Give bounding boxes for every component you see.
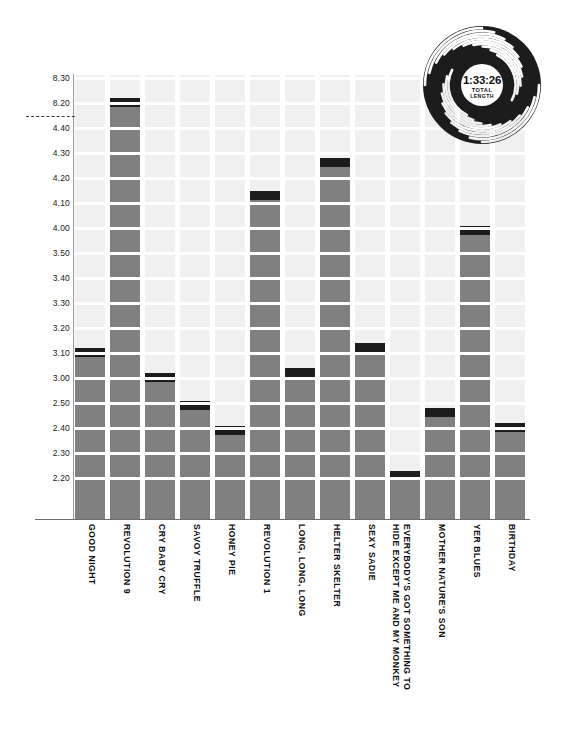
y-axis-tick-label: 3.10 [32,349,70,358]
gridline [75,452,530,455]
y-axis-tick-label: 4.20 [32,174,70,183]
gridline [75,252,530,255]
x-axis-tick-label: SAVOY TRUFFLE [192,524,203,694]
y-axis-tick-label: 4.30 [32,149,70,158]
x-axis-tick-label: BIRTHDAY [507,524,518,694]
y-axis-tick-label: 3.40 [32,274,70,283]
x-axis-line [35,519,530,520]
y-axis-tick-label: 2.40 [32,424,70,433]
bar-chart: 8.308.204.404.304.204.104.003.503.403.30… [0,0,566,737]
bar[interactable] [145,373,175,519]
bar[interactable] [425,408,455,519]
gridline [75,177,530,180]
y-axis-tick-label: 8.20 [32,99,70,108]
bar[interactable] [285,368,315,519]
gridline [75,377,530,380]
y-axis-tick-label: 3.20 [32,324,70,333]
bar[interactable] [110,98,140,519]
y-axis-tick-label: 4.00 [32,224,70,233]
x-axis-tick-label: REVOLUTION 1 [262,524,273,694]
x-axis-tick-label: YER BLUES [472,524,483,694]
gridline [75,352,530,355]
total-length-value: 1:33:26 [419,74,545,86]
gridline [75,277,530,280]
y-axis-tick-label: 4.40 [32,124,70,133]
gridline [75,152,530,155]
bar[interactable] [495,423,525,519]
total-length-badge: 1:33:26 TOTAL LENGTH [419,22,545,148]
x-axis-tick-label: SEXY SADIE [367,524,378,694]
bar[interactable] [460,226,490,520]
total-length-caption-line2: LENGTH [419,93,545,99]
bar[interactable] [75,348,105,519]
y-axis-tick-label: 3.30 [32,299,70,308]
y-axis-line [73,74,74,520]
bar-cap [250,191,280,200]
y-axis-tick-label: 3.50 [32,249,70,258]
gridline [75,327,530,330]
y-axis-tick-label: 2.20 [32,474,70,483]
x-axis-tick-label: EVERYBODY'S GOT SOMETHING TO HIDE EXCEPT… [391,524,412,694]
y-axis-tick-label: 2.30 [32,449,70,458]
gridline [75,227,530,230]
gridline [75,302,530,305]
x-axis-tick-label: HONEY PIE [227,524,238,694]
y-axis-tick-label: 2.50 [32,399,70,408]
x-axis-tick-label: LONG, LONG, LONG [297,524,308,694]
x-axis-tick-label: HELTER SKELTER [332,524,343,694]
x-axis-tick-label: GOOD NIGHT [87,524,98,694]
y-axis-tick-label: 4.10 [32,199,70,208]
bar-cap [425,408,455,417]
y-axis-tick-labels: 8.308.204.404.304.204.104.003.503.403.30… [26,0,70,737]
bar[interactable] [180,401,210,519]
bar[interactable] [215,426,245,520]
gridline [75,202,530,205]
bar[interactable] [320,158,350,519]
x-axis-tick-label: REVOLUTION 9 [122,524,133,694]
bar[interactable] [250,191,280,520]
x-axis-tick-label: MOTHER NATURE'S SON [437,524,448,694]
y-axis-tick-label: 8.30 [32,74,70,83]
bar[interactable] [355,343,385,519]
y-axis-tick-label: 3.00 [32,374,70,383]
gridline [75,402,530,405]
gridline [75,427,530,430]
bar-cap [320,158,350,167]
gridline [75,477,530,480]
x-axis-tick-label: CRY BABY CRY [157,524,168,694]
